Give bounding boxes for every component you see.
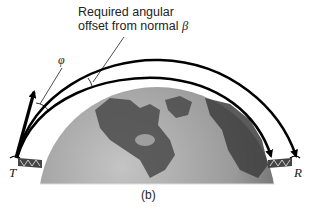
beta-leader-line bbox=[93, 37, 124, 82]
receiver-label: R bbox=[294, 166, 302, 180]
transmitter-label: T bbox=[9, 166, 16, 180]
beta-symbol: β bbox=[182, 19, 188, 33]
beta-angle-arc bbox=[88, 78, 92, 86]
annotation-line1: Required angular bbox=[78, 5, 174, 19]
annotation-line2-wrapper: offset from normal β bbox=[78, 19, 188, 33]
earth-globe bbox=[39, 87, 275, 211]
phi-label: φ bbox=[58, 53, 65, 67]
annotation-line2: offset from normal bbox=[78, 19, 179, 33]
figure-caption: (b) bbox=[141, 188, 156, 202]
